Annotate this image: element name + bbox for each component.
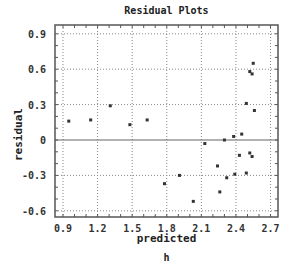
data-point [232,135,235,138]
svg-text:0.3: 0.3 [28,100,46,111]
data-point [252,62,255,65]
data-point [225,176,228,179]
y-tick-label: 0.9 [28,29,46,40]
data-point [245,172,248,175]
y-tick-label: -0.6 [22,206,46,217]
x-tick-label: 2.7 [262,223,280,234]
data-point [238,154,241,157]
data-point [223,139,226,142]
data-point [178,174,181,177]
data-point [146,118,149,121]
data-point [163,182,166,185]
svg-text:2.1: 2.1 [192,223,210,234]
data-point [245,102,248,105]
y-tick-label: 0.3 [28,100,46,111]
data-point [233,173,236,176]
svg-text:0.9: 0.9 [54,223,72,234]
data-point [240,133,243,136]
svg-text:-0.3: -0.3 [22,170,46,181]
data-point [251,155,254,158]
x-tick-label: 1.2 [89,223,107,234]
svg-text:0: 0 [40,135,46,146]
x-tick-label: 2.4 [227,223,245,234]
svg-text:1.2: 1.2 [89,223,107,234]
x-tick-label: 0.9 [54,223,72,234]
data-point [203,142,206,145]
data-point [216,164,219,167]
data-point [128,123,131,126]
svg-text:-0.6: -0.6 [22,206,46,217]
data-point [248,151,251,154]
svg-text:1.8: 1.8 [158,223,176,234]
data-point [109,104,112,107]
y-tick-label: 0.6 [28,64,46,75]
svg-text:2.4: 2.4 [227,223,245,234]
data-point [89,118,92,121]
x-tick-label: 1.5 [123,223,141,234]
x-tick-label: 2.1 [192,223,210,234]
scatter-plot: 0.91.21.51.82.12.42.70.90.60.30-0.3-0.6 [0,0,293,266]
data-point [251,72,254,75]
y-tick-label: 0 [40,135,46,146]
svg-text:2.7: 2.7 [262,223,280,234]
data-point [67,120,70,123]
svg-text:0.6: 0.6 [28,64,46,75]
x-tick-label: 1.8 [158,223,176,234]
data-point [218,190,221,193]
y-tick-label: -0.3 [22,170,46,181]
data-point [253,109,256,112]
data-point [192,200,195,203]
svg-text:0.9: 0.9 [28,29,46,40]
svg-text:1.5: 1.5 [123,223,141,234]
